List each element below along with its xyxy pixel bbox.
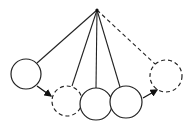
- string-right-ghost: [97, 10, 155, 64]
- arrow-left: [37, 86, 51, 96]
- string-right: [97, 10, 120, 87]
- ball-right-ghost: [150, 60, 182, 92]
- string-middle: [96, 10, 97, 88]
- arrow-right: [143, 90, 157, 98]
- strings: [37, 10, 155, 88]
- newtons-cradle-diagram: [0, 0, 191, 128]
- pivot-point: [95, 8, 98, 11]
- ball-right: [110, 86, 142, 118]
- ball-left-raised: [11, 59, 41, 89]
- ball-left-ghost: [52, 86, 82, 116]
- ball-middle: [80, 88, 112, 120]
